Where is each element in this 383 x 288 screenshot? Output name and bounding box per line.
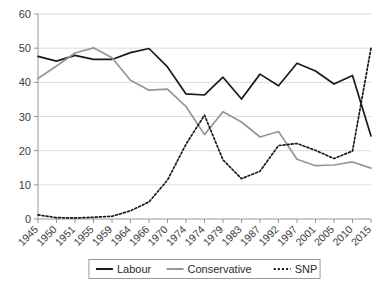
series-line-labour bbox=[38, 49, 371, 136]
legend-label-labour: Labour bbox=[117, 263, 152, 275]
y-tick-label: 10 bbox=[19, 179, 31, 191]
y-tick-label: 30 bbox=[19, 111, 31, 123]
data-series-group bbox=[38, 48, 371, 218]
x-axis-ticks: 1945195019511955195919641966197019741974… bbox=[15, 219, 373, 248]
legend-label-conservative: Conservative bbox=[188, 263, 252, 275]
y-tick-label: 20 bbox=[19, 145, 31, 157]
y-tick-label: 50 bbox=[19, 42, 31, 54]
chart-container: 0102030405060 19451950195119551959196419… bbox=[0, 0, 383, 288]
legend-label-snp: SNP bbox=[295, 263, 318, 275]
vote-share-line-chart: 0102030405060 19451950195119551959196419… bbox=[0, 0, 383, 288]
y-axis-ticks: 0102030405060 bbox=[19, 8, 38, 225]
gridlines bbox=[38, 14, 371, 185]
y-tick-label: 40 bbox=[19, 76, 31, 88]
y-tick-label: 0 bbox=[25, 213, 31, 225]
chart-legend: LabourConservativeSNP bbox=[89, 260, 320, 279]
y-tick-label: 60 bbox=[19, 8, 31, 20]
series-line-conservative bbox=[38, 48, 371, 168]
x-tick-label: 2015 bbox=[348, 223, 373, 248]
